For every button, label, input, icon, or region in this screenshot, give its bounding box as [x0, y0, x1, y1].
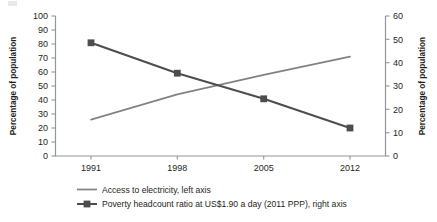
plot-area	[52, 16, 390, 160]
left-tick-label: 20	[38, 123, 48, 133]
left-tick-label: 50	[38, 81, 48, 91]
right-tick-label: 60	[393, 11, 403, 21]
left-tick-label: 30	[38, 109, 48, 119]
legend-label: Poverty headcount ratio at US$1.90 a day…	[102, 199, 347, 209]
legend-item-poverty-headcount-ratio: Poverty headcount ratio at US$1.90 a day…	[77, 199, 347, 209]
data-point-marker	[174, 70, 181, 77]
legend-item-access-to-electricity: Access to electricity, left axis	[77, 185, 211, 195]
right-tick-label: 20	[393, 105, 403, 115]
legend-label: Access to electricity, left axis	[102, 185, 211, 195]
left-tick-label: 60	[38, 67, 48, 77]
series-line-poverty-headcount-ratio	[91, 43, 350, 128]
left-tick-label: 90	[38, 25, 48, 35]
series-line-access-to-electricity	[91, 57, 350, 120]
data-point-marker	[260, 95, 267, 102]
left-tick-labels: 100 90 80 70 60 50 40 30 20 10 0	[33, 11, 48, 161]
legend-swatch-marker	[84, 201, 91, 208]
right-tick-label: 30	[393, 81, 403, 91]
left-tick-label: 40	[38, 95, 48, 105]
chart-svg: 100 90 80 70 60 50 40 30 20 10 0 60 50 4…	[0, 0, 437, 222]
left-tick-label: 0	[43, 151, 48, 161]
chart-figure: 100 90 80 70 60 50 40 30 20 10 0 60 50 4…	[0, 0, 437, 222]
left-tick-label: 80	[38, 39, 48, 49]
data-point-marker	[347, 125, 354, 132]
left-axis-title: Percentage of population	[9, 37, 18, 135]
chart-legend: Access to electricity, left axis Poverty…	[77, 185, 347, 210]
left-tick-label: 100	[33, 11, 48, 21]
x-tick-label: 2012	[340, 163, 360, 173]
x-tick-label: 2005	[254, 163, 274, 173]
right-tick-label: 40	[393, 58, 403, 68]
x-tick-label: 1991	[81, 163, 101, 173]
x-tick-labels: 1991 1998 2005 2012	[81, 163, 360, 173]
right-tick-label: 50	[393, 35, 403, 45]
x-tick-label: 1998	[167, 163, 187, 173]
data-point-marker	[88, 39, 95, 46]
right-axis-title: Percentage of population	[418, 37, 427, 135]
scan-artifact	[8, 1, 17, 6]
right-tick-labels: 60 50 40 30 20 10 0	[393, 11, 403, 161]
right-tick-label: 0	[393, 151, 398, 161]
left-tick-label: 10	[38, 137, 48, 147]
right-tick-label: 10	[393, 128, 403, 138]
left-tick-label: 70	[38, 53, 48, 63]
